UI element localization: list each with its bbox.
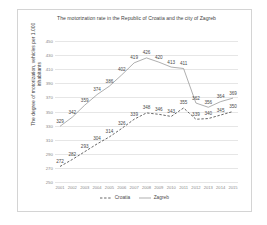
data-label: 402	[118, 67, 126, 72]
data-label: 386	[106, 78, 114, 83]
legend-item-croatia[interactable]: Croatia	[100, 195, 130, 201]
data-label: 420	[155, 54, 163, 59]
data-label: 304	[93, 136, 101, 141]
data-label: 282	[69, 151, 77, 156]
data-label: 426	[143, 50, 151, 55]
x-axis-tick: 2003	[80, 185, 89, 190]
chart-container: The motorization rate in the Republic of…	[17, 9, 252, 212]
x-axis-tick: 2015	[228, 185, 237, 190]
y-axis-tick: 270	[46, 165, 53, 170]
x-axis-tick: 2006	[117, 185, 126, 190]
data-label: 329	[56, 118, 64, 123]
x-axis-tick: 2009	[154, 185, 163, 190]
data-label: 411	[180, 60, 187, 65]
y-axis-tick: 390	[46, 81, 53, 86]
y-axis-tick: 450	[46, 39, 53, 44]
data-label: 364	[217, 94, 225, 99]
data-label: 359	[81, 97, 89, 102]
data-label: 374	[93, 87, 101, 92]
plot-area: 250270290310330350370390410430450 200120…	[55, 41, 238, 182]
legend-label-zagreb: Zagreb	[154, 195, 169, 201]
legend-swatch-croatia-icon	[100, 196, 112, 200]
x-axis-tick: 2011	[179, 185, 188, 190]
data-label: 350	[229, 104, 237, 109]
y-axis-tick: 330	[46, 123, 53, 128]
data-label: 369	[229, 90, 237, 95]
line-series-zagreb	[60, 58, 233, 126]
x-axis-tick: 2013	[204, 185, 213, 190]
x-axis-tick: 2001	[55, 185, 64, 190]
y-axis-tick: 310	[46, 137, 53, 142]
y-axis-tick: 350	[46, 109, 53, 114]
y-axis-tick: 370	[46, 95, 53, 100]
data-label: 346	[155, 106, 163, 111]
data-label: 342	[69, 109, 77, 114]
y-axis-tick: 430	[46, 53, 53, 58]
line-series-croatia	[60, 108, 233, 167]
x-axis-tick: 2014	[216, 185, 225, 190]
screenshot-root: The motorization rate in the Republic of…	[0, 0, 267, 225]
data-label: 413	[167, 59, 175, 64]
x-axis-tick: 2012	[191, 185, 200, 190]
y-axis-title: The degree of motorization, vehicles per…	[30, 14, 42, 134]
data-label: 348	[143, 105, 151, 110]
x-axis-tick: 2005	[105, 185, 114, 190]
data-label: 340	[204, 111, 212, 116]
chart-legend: Croatia Zagreb	[18, 195, 251, 201]
x-axis-tick: 2004	[93, 185, 102, 190]
x-axis-tick: 2010	[167, 185, 176, 190]
y-axis-tick: 410	[46, 67, 53, 72]
gridline	[55, 182, 238, 183]
data-label: 356	[204, 99, 212, 104]
data-label: 345	[217, 107, 225, 112]
data-label: 293	[81, 144, 89, 149]
legend-item-zagreb[interactable]: Zagreb	[139, 195, 169, 201]
data-label: 343	[167, 108, 175, 113]
x-axis-tick: 2007	[130, 185, 139, 190]
y-axis-tick: 290	[46, 151, 53, 156]
data-label: 362	[192, 95, 200, 100]
legend-label-croatia: Croatia	[115, 195, 130, 201]
x-axis-tick: 2002	[68, 185, 77, 190]
legend-swatch-zagreb-icon	[139, 196, 151, 200]
data-label: 272	[56, 158, 64, 163]
y-axis-tick: 250	[46, 180, 53, 185]
x-axis-tick: 2008	[142, 185, 151, 190]
data-label: 339	[192, 111, 200, 116]
chart-title: The motorization rate in the Republic of…	[44, 15, 229, 23]
data-label: 326	[118, 120, 126, 125]
data-label: 314	[106, 129, 114, 134]
data-label: 339	[130, 111, 138, 116]
data-label: 355	[180, 100, 188, 105]
data-label: 419	[130, 55, 138, 60]
